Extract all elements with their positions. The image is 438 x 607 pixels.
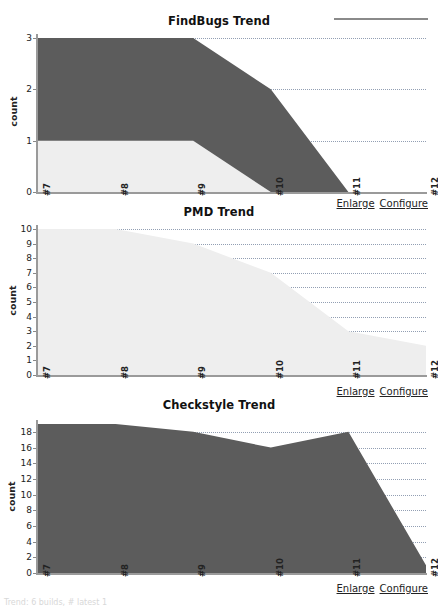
y-tick-mark (33, 317, 36, 318)
y-tick-label: 16 (8, 443, 32, 453)
chart-links-pmd: EnlargeConfigure (337, 386, 428, 397)
x-tick-label: #12 (430, 360, 438, 379)
trend-charts-page: FindBugs Trend count 0123#7#8#9#10#11#12… (0, 0, 438, 607)
configure-link-pmd[interactable]: Configure (380, 386, 428, 397)
x-tick-label: #7 (42, 564, 52, 577)
y-tick-label: 6 (8, 282, 32, 292)
x-tick-label: #7 (42, 183, 52, 196)
y-tick-mark (33, 331, 36, 332)
y-tick-mark (33, 89, 36, 90)
y-axis-line (36, 420, 38, 575)
y-tick-label: 10 (8, 224, 32, 234)
y-tick-label: 0 (8, 568, 32, 578)
x-tick-label: #12 (430, 558, 438, 577)
x-tick-label: #9 (197, 564, 207, 577)
y-tick-label: 4 (8, 537, 32, 547)
x-tick-label: #11 (352, 177, 362, 196)
y-tick-label: 1 (8, 136, 32, 146)
y-tick-label: 2 (8, 341, 32, 351)
configure-link-checkstyle[interactable]: Configure (380, 583, 428, 594)
y-tick-label: 12 (8, 474, 32, 484)
x-tick-label: #9 (197, 366, 207, 379)
y-tick-label: 3 (8, 33, 32, 43)
y-tick-mark (33, 360, 36, 361)
y-tick-mark (33, 346, 36, 347)
y-tick-mark (33, 432, 36, 433)
y-tick-label: 0 (8, 187, 32, 197)
series-band-normal (38, 424, 426, 573)
series-band-low (38, 229, 426, 375)
y-tick-mark (33, 141, 36, 142)
y-tick-label: 2 (8, 552, 32, 562)
x-tick-label: #9 (197, 183, 207, 196)
y-tick-mark (33, 495, 36, 496)
y-tick-mark (33, 573, 36, 574)
y-tick-label: 6 (8, 521, 32, 531)
y-tick-mark (33, 38, 36, 39)
panel-pmd: PMD Trend count 012345678910#7#8#9#10#11… (0, 205, 438, 400)
y-tick-label: 8 (8, 505, 32, 515)
enlarge-link-pmd[interactable]: Enlarge (337, 386, 375, 397)
x-tick-label: #12 (430, 177, 438, 196)
y-tick-mark (33, 510, 36, 511)
footer-ghost-text: Trend: 6 builds, # latest 1 (4, 598, 107, 607)
plot-pmd: 012345678910#7#8#9#10#11#12 (0, 205, 438, 400)
y-tick-mark (33, 375, 36, 376)
y-tick-label: 10 (8, 490, 32, 500)
y-tick-label: 1 (8, 355, 32, 365)
plot-checkstyle: 024681012141618#7#8#9#10#11#12 (0, 398, 438, 598)
y-tick-mark (33, 244, 36, 245)
y-tick-label: 3 (8, 326, 32, 336)
y-axis-line (36, 34, 38, 194)
y-tick-label: 18 (8, 427, 32, 437)
x-tick-label: #8 (120, 564, 130, 577)
series-area-pmd (38, 229, 426, 375)
series-area-checkstyle (38, 424, 426, 573)
y-tick-mark (33, 542, 36, 543)
y-tick-label: 9 (8, 239, 32, 249)
y-tick-mark (33, 302, 36, 303)
y-tick-mark (33, 229, 36, 230)
y-tick-label: 5 (8, 297, 32, 307)
x-tick-label: #10 (275, 558, 285, 577)
enlarge-link-checkstyle[interactable]: Enlarge (337, 583, 375, 594)
plot-area-checkstyle (38, 424, 426, 573)
plot-findbugs: 0123#7#8#9#10#11#12 (0, 14, 438, 214)
x-tick-label: #8 (120, 366, 130, 379)
x-tick-label: #10 (275, 177, 285, 196)
y-tick-label: 4 (8, 312, 32, 322)
plot-area-pmd (38, 229, 426, 375)
y-tick-label: 0 (8, 370, 32, 380)
x-tick-label: #11 (352, 558, 362, 577)
x-axis-line (36, 573, 427, 575)
y-tick-mark (33, 258, 36, 259)
y-tick-mark (33, 479, 36, 480)
x-axis-line (36, 192, 427, 194)
plot-area-findbugs (38, 38, 426, 192)
x-tick-label: #10 (275, 360, 285, 379)
y-tick-label: 2 (8, 84, 32, 94)
series-area-findbugs (38, 38, 426, 192)
x-tick-label: #7 (42, 366, 52, 379)
panel-findbugs: FindBugs Trend count 0123#7#8#9#10#11#12… (0, 14, 438, 214)
panel-checkstyle: Checkstyle Trend count 024681012141618#7… (0, 398, 438, 598)
y-tick-mark (33, 287, 36, 288)
y-tick-mark (33, 273, 36, 274)
y-tick-mark (33, 557, 36, 558)
y-tick-mark (33, 448, 36, 449)
x-tick-label: #8 (120, 183, 130, 196)
y-tick-label: 14 (8, 458, 32, 468)
y-axis-line (36, 225, 38, 377)
y-tick-label: 7 (8, 268, 32, 278)
y-tick-mark (33, 526, 36, 527)
chart-links-checkstyle: EnlargeConfigure (337, 583, 428, 594)
x-tick-label: #11 (352, 360, 362, 379)
x-axis-line (36, 375, 427, 377)
y-tick-mark (33, 463, 36, 464)
y-tick-label: 8 (8, 253, 32, 263)
y-tick-mark (33, 192, 36, 193)
